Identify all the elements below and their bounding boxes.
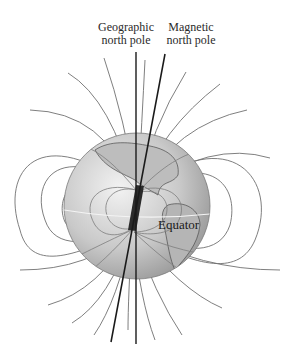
diagram-canvas (0, 0, 294, 364)
magnetic-field-diagram: Geographic north pole Magnetic north pol… (0, 0, 294, 364)
magnetic-label-line2: north pole (160, 34, 222, 47)
geographic-label-line2: north pole (91, 34, 161, 47)
magnetic-north-pole-label: Magnetic north pole (160, 21, 222, 47)
equator-label: Equator (158, 218, 199, 231)
geographic-north-pole-label: Geographic north pole (91, 21, 161, 47)
